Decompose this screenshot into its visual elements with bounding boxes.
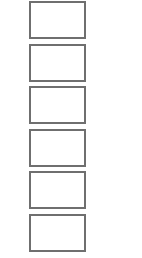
empty-slot-6[interactable] (29, 214, 86, 252)
canvas (0, 0, 142, 258)
empty-slot-2[interactable] (29, 44, 86, 82)
slot-list (29, 1, 86, 257)
empty-slot-4[interactable] (29, 129, 86, 167)
empty-slot-3[interactable] (29, 86, 86, 124)
empty-slot-1[interactable] (29, 1, 86, 39)
empty-slot-5[interactable] (29, 171, 86, 209)
